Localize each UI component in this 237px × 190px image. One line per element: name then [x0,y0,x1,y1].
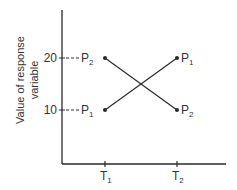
y-tick-label: 20 [44,51,58,65]
series-label: P2 [181,103,194,119]
y-tick-annotation: P1 [81,103,94,119]
chart: Value of response variable 20 P2 10 P1 T… [0,0,237,190]
y-axis-label-line-1: Value of response [14,36,26,124]
data-point [103,56,107,60]
y-axis-label-line-2: variable [28,61,40,100]
data-point [175,56,179,60]
series-p2: P2 [103,56,194,119]
x-tick-label: T2 [172,169,184,185]
series-label: P1 [181,51,194,67]
x-tick-label: T1 [100,169,112,185]
y-axis-label: Value of response variable [14,36,40,124]
y-tick-annotation: P2 [81,51,94,67]
y-tick-10: 10 P1 [44,103,94,119]
y-tick-label: 10 [44,103,58,117]
data-point [103,108,107,112]
data-point [175,108,179,112]
y-tick-20: 20 P2 [44,51,94,67]
